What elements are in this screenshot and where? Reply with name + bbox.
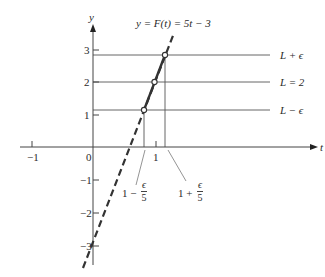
limit-label: L = 2 — [280, 77, 304, 88]
right-interval-prefix: 1 + — [178, 188, 192, 199]
point-lower-icon — [141, 107, 146, 112]
point-limit-icon — [152, 79, 157, 84]
y-axis-label: y — [89, 12, 94, 23]
right-fraction-denominator: 5 — [197, 192, 203, 203]
y-tick-label-2: 2 — [84, 77, 90, 88]
y-tick-label-neg3: −3 — [80, 241, 92, 252]
left-interval-prefix: 1 − — [122, 188, 136, 199]
x-axis-arrow-icon — [310, 144, 318, 150]
point-upper-icon — [162, 52, 167, 57]
y-tick-label-1: 1 — [84, 110, 90, 121]
y-tick-label-neg2: −2 — [80, 208, 92, 219]
left-fraction-numerator: ϵ — [141, 180, 147, 192]
y-tick-label-3: 3 — [84, 45, 90, 56]
lower-bound-label: L − ϵ — [280, 105, 303, 116]
epsilon-delta-diagram — [0, 0, 325, 277]
x-axis-label: t — [320, 142, 323, 153]
function-label: y = F(t) = 5t − 3 — [136, 18, 211, 29]
left-fraction-denominator: 5 — [141, 192, 147, 203]
y-tick-label-neg1: −1 — [80, 175, 92, 186]
x-tick-label-neg1: −1 — [27, 152, 39, 163]
y-axis-arrow-icon — [90, 24, 96, 32]
right-interval-fraction: ϵ 5 — [197, 180, 203, 203]
right-label-leader — [168, 150, 186, 181]
x-tick-label-1: 1 — [153, 152, 159, 163]
x-tick-label-0: 0 — [86, 152, 92, 163]
right-fraction-numerator: ϵ — [197, 180, 203, 192]
upper-bound-label: L + ϵ — [280, 50, 303, 61]
left-interval-fraction: ϵ 5 — [141, 180, 147, 203]
